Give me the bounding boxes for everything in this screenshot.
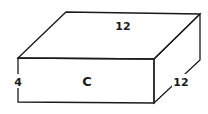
top-face (18, 12, 200, 59)
right-face (154, 14, 200, 103)
front-face-label: C (82, 74, 92, 89)
left-height-label: 4 (14, 76, 22, 89)
top-depth-label: 12 (115, 20, 130, 33)
right-width-label: 12 (173, 76, 188, 89)
box-diagram: 12 12 4 C (0, 0, 208, 114)
